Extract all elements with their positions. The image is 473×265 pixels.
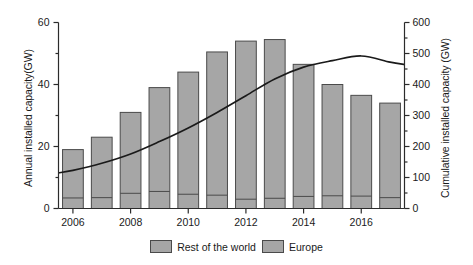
chart-figure: Annual installed capacity(GW) Cumulative…	[0, 0, 473, 265]
legend-item-europe: Europe	[262, 240, 323, 253]
bar-2013	[264, 40, 285, 209]
x-tick-label-2014: 2014	[282, 216, 326, 228]
bar-2016	[351, 95, 372, 208]
y-axis-left-title: Annual installed capacity(GW)	[22, 18, 34, 218]
y-tick-label-right-400: 400	[413, 78, 453, 90]
legend-label-europe: Europe	[289, 241, 323, 253]
x-tick-label-2012: 2012	[224, 216, 268, 228]
legend-swatch-rest-of-the-world	[150, 240, 172, 253]
y-tick-label-left-20: 20	[10, 140, 50, 152]
bar-2009	[149, 88, 170, 209]
y-tick-label-left-60: 60	[10, 16, 50, 28]
y-tick-label-right-200: 200	[413, 140, 453, 152]
bar-2011	[207, 52, 228, 209]
y-tick-label-right-100: 100	[413, 171, 453, 183]
y-tick-label-left-40: 40	[10, 78, 50, 90]
bar-2010	[178, 72, 199, 208]
y-tick-label-right-500: 500	[413, 47, 453, 59]
x-tick-label-2008: 2008	[109, 216, 153, 228]
bar-2014	[293, 64, 314, 208]
legend-item-rest-of-the-world: Rest of the world	[150, 240, 256, 253]
x-tick-label-2016: 2016	[339, 216, 383, 228]
bar-2006	[63, 150, 84, 209]
legend-label-rest-of-the-world: Rest of the world	[177, 241, 256, 253]
bar-2012	[236, 41, 257, 208]
y-tick-label-right-0: 0	[413, 202, 453, 214]
y-tick-label-right-600: 600	[413, 16, 453, 28]
bar-2017	[380, 103, 401, 208]
x-tick-label-2006: 2006	[51, 216, 95, 228]
y-tick-label-left-0: 0	[10, 202, 50, 214]
legend-swatch-europe	[262, 240, 284, 253]
bar-series-group	[63, 40, 401, 209]
y-tick-label-right-300: 300	[413, 109, 453, 121]
bar-2008	[120, 112, 141, 208]
x-tick-label-2010: 2010	[166, 216, 210, 228]
chart-legend: Rest of the world Europe	[0, 240, 473, 253]
bar-2015	[322, 85, 343, 209]
